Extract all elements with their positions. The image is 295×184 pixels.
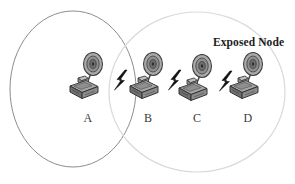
node-label-b: B bbox=[136, 112, 160, 124]
node-label-c: C bbox=[185, 112, 209, 124]
node-icon-a bbox=[70, 53, 103, 99]
exposed-node-annotation: Exposed Node bbox=[213, 36, 284, 48]
node-label-a: A bbox=[76, 112, 100, 124]
node-icon-c bbox=[179, 55, 212, 101]
lightning-bolt-icon bbox=[169, 70, 182, 90]
diagram-canvas: A B C D Exposed Node bbox=[0, 0, 295, 184]
node-icon-d bbox=[230, 53, 263, 99]
diagram-svg bbox=[0, 0, 295, 184]
lightning-bolt-icon bbox=[115, 70, 128, 90]
node-label-d: D bbox=[236, 112, 260, 124]
node-group bbox=[70, 53, 263, 101]
